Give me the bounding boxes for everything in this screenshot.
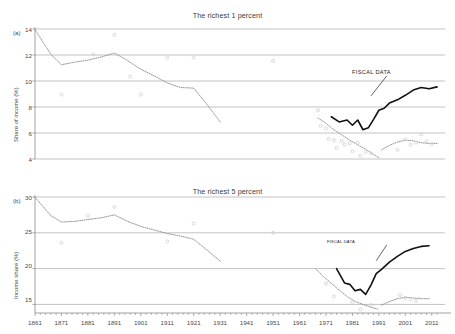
scatter-point (396, 148, 399, 151)
scatter-point (317, 109, 320, 112)
y-tick-b-2: 20 (14, 262, 32, 269)
scatter-point (319, 124, 322, 127)
scatter-point (60, 93, 63, 96)
y-tick-a-5: 4 (14, 156, 32, 163)
scatter-point (356, 141, 359, 144)
fiscal-data-line (331, 87, 437, 130)
survey-dotted-line (35, 30, 220, 122)
scatter-point (86, 214, 89, 217)
scatter-point (351, 150, 354, 153)
survey-dotted-line (35, 197, 220, 261)
y-tick-b-1: 25 (14, 228, 32, 235)
y-tick-a-2: 10 (14, 78, 32, 85)
scatter-point (324, 282, 327, 285)
y-tick-b-0: 30 (14, 194, 32, 201)
scatter-point (272, 59, 275, 62)
x-tick-2001: 2001 (391, 319, 419, 326)
scatter-point (129, 75, 132, 78)
scatter-point (351, 301, 354, 304)
x-tick-1981: 1981 (338, 319, 366, 326)
x-tick-1901: 1901 (127, 319, 155, 326)
annotation-leader-line (371, 76, 387, 96)
scatter-point (414, 299, 417, 302)
x-tick-1941: 1941 (233, 319, 261, 326)
y-tick-a-3: 8 (14, 104, 32, 111)
scatter-point (113, 33, 116, 36)
scatter-point (113, 206, 116, 209)
scatter-point (192, 56, 195, 59)
x-tick-1881: 1881 (74, 319, 102, 326)
y-tick-a-4: 6 (14, 130, 32, 137)
scatter-point (343, 143, 346, 146)
y-tick-a-0: 14 (14, 26, 32, 33)
scatter-point (404, 138, 407, 141)
y-tick-b-3: 15 (14, 296, 32, 303)
scatter-point (359, 308, 362, 311)
scatter-point (399, 294, 402, 297)
x-tick-1891: 1891 (100, 319, 128, 326)
scatter-point (192, 222, 195, 225)
scatter-point (364, 150, 367, 153)
scatter-point (332, 139, 335, 142)
scatter-point (327, 137, 330, 140)
chart-panel-richest-5-percent: The richest 5 percent (b) Income share (… (0, 175, 455, 334)
survey-dotted-line (382, 297, 430, 305)
scatter-point (139, 93, 142, 96)
scatter-point (340, 139, 343, 142)
x-tick-1931: 1931 (206, 319, 234, 326)
plot-area-b (35, 197, 445, 313)
scatter-point (359, 154, 362, 157)
scatter-point (335, 146, 338, 149)
x-tick-2011: 2011 (418, 319, 446, 326)
x-tick-1991: 1991 (365, 319, 393, 326)
annotation-leader-line (376, 245, 387, 261)
scatter-point (425, 140, 428, 143)
scatter-point (409, 298, 412, 301)
scatter-point (409, 143, 412, 146)
scatter-point (414, 141, 417, 144)
x-tick-1861: 1861 (21, 319, 49, 326)
fiscal-data-line (337, 246, 430, 295)
plot-area-a (35, 29, 445, 159)
scatter-point (166, 240, 169, 243)
x-tick-1971: 1971 (312, 319, 340, 326)
chart-title-a: The richest 1 percent (0, 11, 455, 20)
x-tick-1911: 1911 (153, 319, 181, 326)
y-axis-label-b: Income share (%) (13, 252, 19, 299)
y-tick-a-1: 12 (14, 52, 32, 59)
scatter-point (332, 295, 335, 298)
x-tick-1961: 1961 (286, 319, 314, 326)
chart-panel-richest-1-percent: The richest 1 percent (a) Share of incom… (0, 0, 455, 175)
x-tick-1951: 1951 (259, 319, 287, 326)
x-tick-1921: 1921 (180, 319, 208, 326)
x-tick-1871: 1871 (47, 319, 75, 326)
chart-title-b: The richest 5 percent (0, 187, 455, 196)
scatter-point (60, 241, 63, 244)
scatter-point (369, 304, 372, 307)
scatter-point (324, 127, 327, 130)
scatter-point (348, 142, 351, 145)
scatter-point (92, 53, 95, 56)
scatter-point (166, 56, 169, 59)
